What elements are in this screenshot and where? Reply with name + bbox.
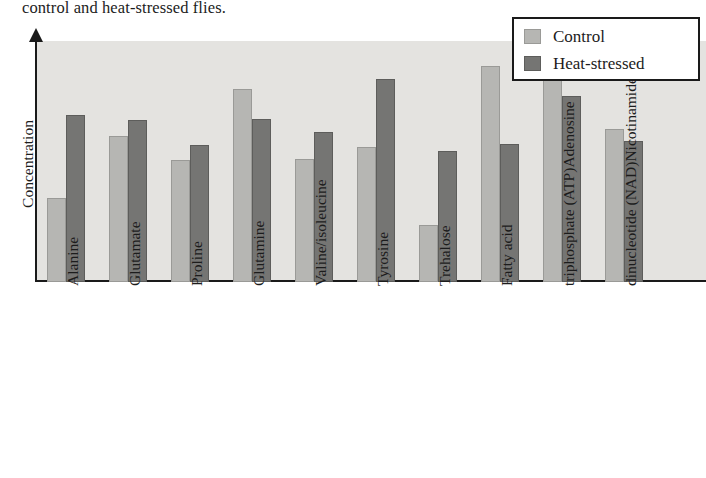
x-tick-label-line: Valine/isoleucine	[312, 179, 329, 286]
x-tick-label-line: Alanine	[64, 237, 81, 286]
x-tick-label-line: Glutamine	[250, 221, 267, 286]
control-swatch-icon	[524, 29, 541, 44]
legend-label-heat-stressed: Heat-stressed	[553, 54, 645, 74]
figure-bar-chart: control and heat-stressed flies. Concent…	[0, 0, 706, 478]
legend-item-heat-stressed: Heat-stressed	[524, 50, 698, 77]
x-tick-label-line: dinucleotide (NAD)	[622, 162, 639, 286]
legend-item-control: Control	[524, 23, 698, 50]
chart-legend: Control Heat-stressed	[512, 17, 700, 81]
x-tick-label-line: Glutamate	[126, 221, 143, 286]
legend-label-control: Control	[553, 27, 605, 47]
x-tick-label-line: Tyrosine	[374, 232, 391, 286]
x-tick-label-line: Trehalose	[436, 225, 453, 286]
x-tick-label-line: Adenosine	[560, 101, 577, 167]
stressed-swatch-icon	[524, 56, 541, 71]
x-tick-label-line: triphosphate (ATP)	[560, 168, 577, 286]
x-tick-label-line: Fatty acid	[498, 224, 515, 286]
x-tick-label-line: Proline	[188, 241, 205, 286]
